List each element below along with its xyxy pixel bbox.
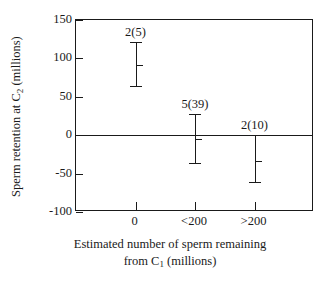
x-axis-tick-mark: [195, 202, 196, 210]
error-bar-lower-cap: [130, 86, 142, 87]
data-point-mean-marker: [136, 65, 143, 66]
x-axis-title-line2: from C1 (millions): [20, 253, 320, 273]
error-bar-lower-cap: [189, 163, 201, 164]
y-axis-tick-label: -100: [28, 205, 72, 217]
zero-reference-line: [76, 135, 312, 136]
y-axis-tick-mark: [76, 174, 83, 175]
y-axis-tick-mark: [76, 20, 83, 21]
y-axis-title-post: (millions): [9, 36, 23, 88]
data-point-annotation: 5(39): [181, 98, 208, 111]
y-axis-tick-label: 100: [28, 51, 72, 63]
y-axis-title-pre: Sperm retention at C: [9, 93, 23, 197]
y-axis-tick-mark: [76, 212, 83, 213]
y-axis-tick-mark: [76, 97, 83, 98]
x-axis-title: Estimated number of sperm remaining from…: [20, 236, 320, 273]
error-bar-upper-cap: [249, 135, 261, 136]
error-bar-upper-cap: [130, 42, 142, 43]
chart-figure: Sperm retention at C2 (millions) 1501005…: [0, 0, 333, 286]
x-axis-tick-label: >200: [241, 214, 267, 228]
y-axis-tick-mark: [76, 58, 83, 59]
error-bar-upper-cap: [189, 114, 201, 115]
x-axis-title-pre: from C: [124, 254, 160, 268]
y-axis-tick-label: -50: [28, 167, 72, 179]
data-point-annotation: 2(5): [125, 26, 146, 39]
x-axis-tick-mark: [136, 202, 137, 210]
x-axis-tick-mark: [255, 202, 256, 210]
y-axis-tick-label: 150: [28, 13, 72, 25]
x-axis-tick-label: <200: [181, 214, 207, 228]
data-point-annotation: 2(10): [241, 119, 268, 132]
x-axis-tick-label: 0: [131, 214, 137, 228]
y-axis-title-subscript: 2: [15, 89, 25, 94]
x-axis-title-post: (millions): [164, 254, 216, 268]
y-axis-tick-label: 0: [28, 128, 72, 140]
y-axis-tick-label: 50: [28, 90, 72, 102]
plot-area: 2(5)5(39)2(10): [75, 19, 313, 211]
data-point-mean-marker: [255, 161, 262, 162]
data-point-mean-marker: [195, 139, 202, 140]
x-axis-tick-labels: 0<200>200: [75, 214, 313, 232]
error-bar-stem: [255, 135, 256, 183]
error-bar-lower-cap: [249, 182, 261, 183]
y-axis-title: Sperm retention at C2 (millions): [9, 17, 26, 217]
x-axis-title-line1: Estimated number of sperm remaining: [20, 236, 320, 253]
